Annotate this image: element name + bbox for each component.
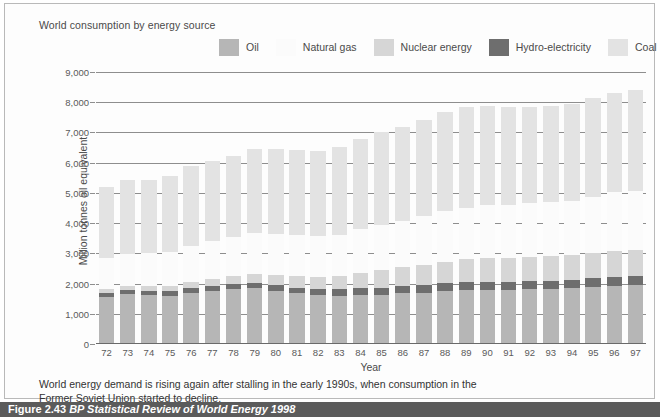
y-axis-tick-label: 8,000 (65, 97, 89, 108)
bar-column[interactable] (456, 72, 477, 344)
bar-segment-nuclear-energy (416, 265, 431, 286)
bar-column[interactable] (435, 72, 456, 344)
bar-segment-nuclear-energy (501, 258, 516, 282)
bar-column[interactable] (540, 72, 561, 344)
x-axis-tick-label: 90 (477, 347, 498, 361)
bar-segment-nuclear-energy (459, 259, 474, 282)
stacked-bar[interactable] (522, 107, 537, 344)
y-axis-tick (90, 344, 95, 345)
y-axis-tick-label: 0 (84, 339, 89, 350)
stacked-bar[interactable] (289, 150, 304, 344)
bar-column[interactable] (583, 72, 604, 344)
bar-column[interactable] (265, 72, 286, 344)
stacked-bar[interactable] (416, 120, 431, 344)
bar-column[interactable] (117, 72, 138, 344)
stacked-bar[interactable] (247, 149, 262, 344)
bar-column[interactable] (477, 72, 498, 344)
bar-segment-oil (374, 295, 389, 344)
bar-segment-oil (247, 288, 262, 344)
stacked-bar[interactable] (99, 187, 114, 344)
stacked-bar[interactable] (205, 161, 220, 344)
stacked-bar[interactable] (480, 106, 495, 344)
stacked-bar[interactable] (585, 98, 600, 344)
bar-column[interactable] (625, 72, 646, 344)
stacked-bar[interactable] (183, 166, 198, 344)
y-axis-tick-label: 6,000 (65, 157, 89, 168)
bar-segment-oil (585, 287, 600, 344)
bar-column[interactable] (413, 72, 434, 344)
bar-column[interactable] (371, 72, 392, 344)
x-axis-tick-label: 84 (350, 347, 371, 361)
stacked-bar[interactable] (501, 107, 516, 344)
bar-column[interactable] (350, 72, 371, 344)
bar-segment-hydro-electricity (607, 277, 622, 286)
bar-column[interactable] (519, 72, 540, 344)
legend-swatch-coal (608, 39, 628, 56)
y-axis-tick (90, 193, 95, 194)
stacked-bar[interactable] (310, 151, 325, 344)
bar-column[interactable] (138, 72, 159, 344)
bar-column[interactable] (202, 72, 223, 344)
y-axis-tick (90, 102, 95, 103)
stacked-bar[interactable] (543, 106, 558, 344)
bar-column[interactable] (329, 72, 350, 344)
bar-column[interactable] (286, 72, 307, 344)
x-axis-tick-label: 77 (202, 347, 223, 361)
bar-column[interactable] (223, 72, 244, 344)
stacked-bar[interactable] (353, 139, 368, 344)
stacked-bar[interactable] (374, 132, 389, 344)
bar-segment-natural-gas (268, 234, 283, 275)
bar-segment-natural-gas (416, 216, 431, 264)
x-axis-tick-label: 81 (286, 347, 307, 361)
legend-swatch-hydro-electricity (489, 39, 509, 56)
bar-segment-coal (247, 149, 262, 233)
stacked-bar[interactable] (607, 93, 622, 344)
bar-segment-coal (162, 176, 177, 252)
x-axis-tick-label: 89 (456, 347, 477, 361)
bar-segment-oil (268, 291, 283, 344)
bar-segment-natural-gas (501, 205, 516, 258)
bar-segment-natural-gas (585, 197, 600, 253)
bar-segment-nuclear-energy (353, 273, 368, 289)
bar-segment-natural-gas (543, 202, 558, 256)
x-axis-tick-label: 93 (540, 347, 561, 361)
bar-column[interactable] (244, 72, 265, 344)
figure-number: Figure 2.43 (8, 403, 66, 415)
x-axis-tick-label: 92 (519, 347, 540, 361)
bar-column[interactable] (561, 72, 582, 344)
stacked-bar[interactable] (120, 180, 135, 344)
stacked-bar[interactable] (437, 112, 452, 344)
legend-swatch-oil (219, 39, 239, 56)
x-axis-tick-label: 97 (625, 347, 646, 361)
bar-column[interactable] (308, 72, 329, 344)
bar-column[interactable] (181, 72, 202, 344)
x-axis-tick-label: 85 (371, 347, 392, 361)
stacked-bar[interactable] (628, 90, 643, 344)
bar-segment-oil (310, 295, 325, 344)
bar-segment-coal (543, 106, 558, 202)
stacked-bar[interactable] (226, 156, 241, 344)
bar-column[interactable] (498, 72, 519, 344)
stacked-bar[interactable] (459, 107, 474, 344)
figure-container: World consumption by energy source Oil N… (0, 0, 660, 417)
bar-column[interactable] (604, 72, 625, 344)
stacked-bar[interactable] (395, 127, 410, 344)
bar-segment-coal (268, 149, 283, 234)
caption-line-1: World energy demand is rising again afte… (39, 378, 599, 392)
stacked-bar[interactable] (162, 176, 177, 344)
bar-column[interactable] (96, 72, 117, 344)
x-axis-tick-label: 83 (329, 347, 350, 361)
stacked-bar[interactable] (332, 147, 347, 344)
y-axis-tick-label: 7,000 (65, 127, 89, 138)
bar-segment-natural-gas (141, 253, 156, 287)
bar-column[interactable] (159, 72, 180, 344)
stacked-bar[interactable] (268, 149, 283, 344)
bar-segment-coal (120, 180, 135, 253)
bar-column[interactable] (392, 72, 413, 344)
bar-segment-oil (99, 297, 114, 344)
bar-segment-nuclear-energy (268, 275, 283, 285)
stacked-bar[interactable] (564, 104, 579, 344)
x-axis-tick-label: 94 (561, 347, 582, 361)
stacked-bar[interactable] (141, 180, 156, 344)
y-axis-tick (90, 132, 95, 133)
